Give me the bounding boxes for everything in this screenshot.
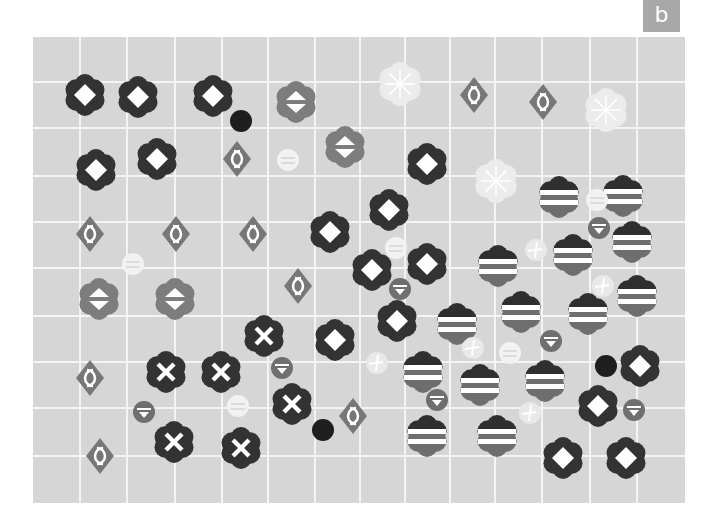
pale-equals-circle-icon xyxy=(227,395,249,417)
pale-cross-circle-icon xyxy=(462,337,484,359)
gray-triangle-circle-icon xyxy=(623,399,645,421)
pale-cross-circle-icon xyxy=(592,275,614,297)
pale-equals-circle-icon xyxy=(586,189,608,211)
gray-triangle-circle-icon xyxy=(271,357,293,379)
dark-circle-icon xyxy=(595,355,617,377)
pale-equals-circle-icon xyxy=(385,237,407,259)
dark-circle-icon xyxy=(312,419,334,441)
gray-triangle-circle-icon xyxy=(588,217,610,239)
marker-grid-plot xyxy=(0,0,708,524)
gray-triangle-circle-icon xyxy=(389,278,411,300)
gray-triangle-circle-icon xyxy=(133,401,155,423)
dark-circle-icon xyxy=(230,110,252,132)
pale-cross-circle-icon xyxy=(519,402,541,424)
pale-equals-circle-icon xyxy=(122,253,144,275)
panel-label: b xyxy=(643,0,680,32)
gray-triangle-circle-icon xyxy=(540,330,562,352)
pale-equals-circle-icon xyxy=(499,342,521,364)
pale-equals-circle-icon xyxy=(277,149,299,171)
gray-triangle-circle-icon xyxy=(426,389,448,411)
pale-cross-circle-icon xyxy=(525,239,547,261)
pale-cross-circle-icon xyxy=(366,352,388,374)
